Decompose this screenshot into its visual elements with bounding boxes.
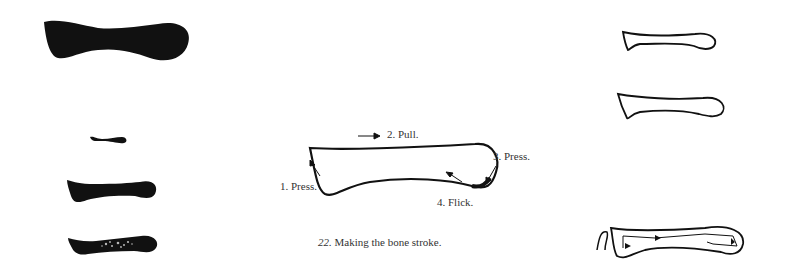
large-bone-stroke: [38, 14, 198, 74]
outline-bone-stroke-arrows: [595, 220, 750, 264]
bone-stroke-diagram: [290, 130, 510, 210]
step-1-label: 1. Press.: [280, 180, 317, 192]
step-4-label: 4. Flick.: [437, 196, 473, 208]
figure-number: 22.: [318, 236, 332, 248]
step-2-label: 2. Pull.: [387, 128, 418, 140]
dry-brush-bone-stroke: [66, 232, 161, 260]
step-3-label: 3. Press.: [493, 150, 530, 162]
small-bone-stroke: [88, 134, 128, 146]
outline-bone-stroke-2: [615, 90, 730, 122]
figure-caption: 22. Making the bone stroke.: [318, 236, 441, 248]
medium-bone-stroke: [65, 178, 160, 206]
figure-caption-text: Making the bone stroke.: [335, 236, 442, 248]
outline-bone-stroke-1: [620, 28, 720, 54]
arrow-pull: [358, 133, 380, 139]
